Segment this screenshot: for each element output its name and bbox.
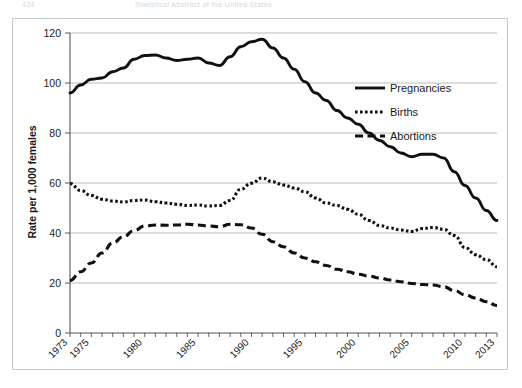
x-tick-label-group: 2000	[334, 336, 358, 360]
x-tick-label: 1985	[174, 336, 198, 360]
x-tick-label-group: 1995	[281, 336, 305, 360]
x-tick-label: 2000	[334, 336, 358, 360]
legend-label-births: Births	[390, 106, 419, 118]
x-tick-label: 1995	[281, 336, 305, 360]
x-axis-ticks: 1973197519801985199019952000200520102013	[46, 333, 497, 360]
x-tick-label-group: 1973	[46, 336, 70, 360]
x-tick-label: 1980	[121, 336, 145, 360]
x-tick-label: 1975	[67, 336, 91, 360]
x-tick-label-group: 1990	[227, 336, 251, 360]
line-chart: 020406080100120 197319751980198519901995…	[0, 0, 522, 388]
x-tick-label-group: 2010	[441, 336, 465, 360]
y-tick-label: 20	[49, 277, 61, 289]
data-series	[70, 39, 497, 305]
y-tick-label: 60	[49, 177, 61, 189]
series-line-births	[70, 178, 497, 267]
y-tick-label: 40	[49, 227, 61, 239]
x-tick-label-group: 1980	[121, 336, 145, 360]
y-tick-label: 120	[43, 27, 61, 39]
y-axis-ticks: 020406080100120	[43, 27, 70, 339]
x-tick-label: 1973	[46, 336, 70, 360]
figure-page: 424 Statistical Abstract of the United S…	[0, 0, 522, 388]
y-axis-label: Rate per 1,000 females	[26, 125, 38, 238]
y-tick-label: 80	[49, 127, 61, 139]
legend-label-pregnancies: Pregnancies	[390, 82, 452, 94]
series-line-abortions	[70, 224, 497, 305]
x-tick-label: 2010	[441, 336, 465, 360]
x-tick-label-group: 2013	[473, 336, 497, 360]
legend-label-abortions: Abortions	[390, 130, 437, 142]
x-tick-label-group: 1985	[174, 336, 198, 360]
x-tick-label-group: 2005	[388, 336, 412, 360]
x-tick-label: 2005	[388, 336, 412, 360]
x-tick-label: 1990	[227, 336, 251, 360]
y-tick-label: 100	[43, 77, 61, 89]
x-tick-label: 2013	[473, 336, 497, 360]
x-tick-label-group: 1975	[67, 336, 91, 360]
